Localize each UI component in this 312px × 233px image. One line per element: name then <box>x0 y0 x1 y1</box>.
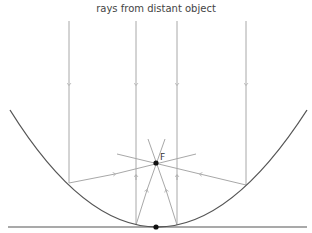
incoming-rays <box>69 21 246 225</box>
reflected-rays <box>69 139 246 225</box>
vertex-point <box>153 224 158 229</box>
focus-label: F <box>160 152 165 162</box>
focus-point <box>153 160 158 165</box>
parabolic-mirror-diagram: F <box>0 0 312 233</box>
